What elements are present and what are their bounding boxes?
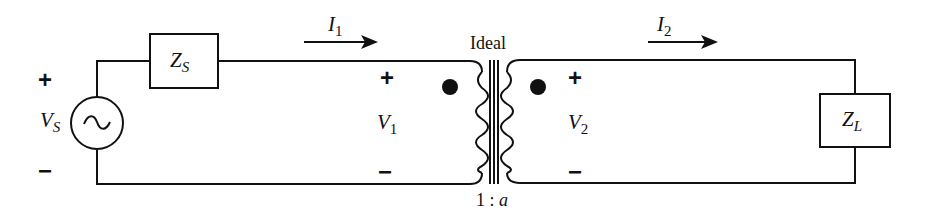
primary-dot-icon — [442, 79, 458, 95]
v1-plus: + — [380, 64, 394, 92]
vs-plus: + — [38, 66, 52, 94]
i1-label: I1 — [328, 12, 343, 37]
zs-label: ZS — [170, 48, 189, 73]
primary-coil — [476, 72, 488, 173]
transformer-label: Ideal — [470, 33, 506, 54]
secondary-dot-icon — [530, 79, 546, 95]
circuit-diagram: + − VS ZS I1 + V1 − Ideal 1 : a + V2 − I… — [0, 0, 933, 218]
wire-source-bottom — [97, 150, 482, 184]
v1-label: V1 — [377, 110, 397, 135]
v1-minus: − — [378, 158, 392, 186]
secondary-coil — [501, 72, 513, 173]
vs-minus: − — [38, 157, 52, 185]
v2-minus: − — [568, 158, 582, 186]
zl-label: ZL — [842, 107, 862, 132]
v2-plus: + — [568, 64, 582, 92]
vs-label: VS — [40, 108, 60, 133]
tilde-icon — [84, 116, 110, 129]
turns-ratio: 1 : a — [476, 190, 508, 211]
v2-label: V2 — [568, 110, 588, 135]
circuit-wiring — [0, 0, 933, 218]
i2-label: I2 — [657, 12, 672, 37]
wire-zs-to-primary — [218, 61, 482, 72]
wire-secondary-top — [507, 60, 855, 94]
wire-source-to-zs — [97, 61, 150, 97]
wire-secondary-bottom — [507, 147, 855, 183]
